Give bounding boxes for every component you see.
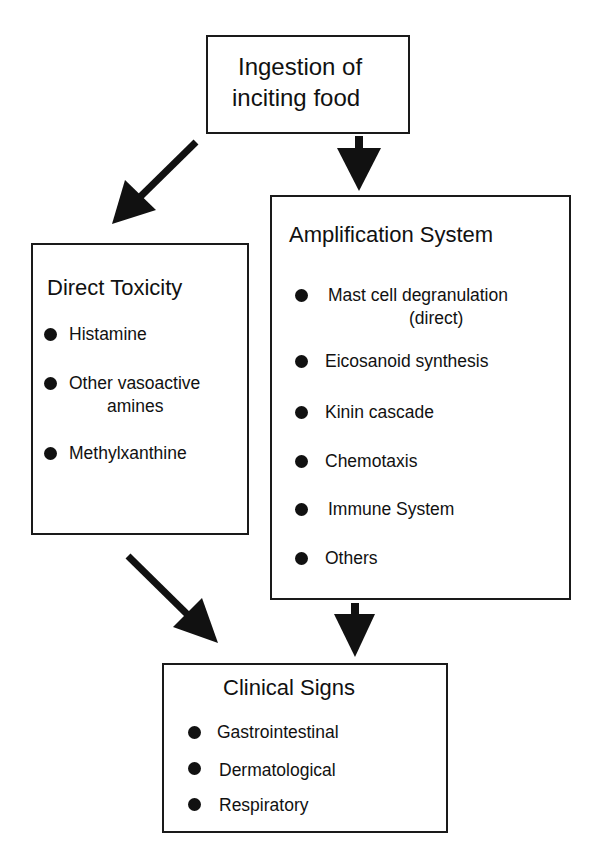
bullet-icon — [44, 328, 57, 341]
bullet-icon — [295, 289, 308, 302]
clinical-signs-box: Clinical Signs Gastrointestinal Dermatol… — [162, 663, 448, 833]
clinical-signs-title: Clinical Signs — [223, 675, 355, 701]
direct-toxicity-item-cont: amines — [107, 395, 163, 417]
direct-toxicity-title: Direct Toxicity — [47, 275, 182, 301]
arrow-start-to-amplification — [337, 136, 381, 191]
bullet-icon — [295, 552, 308, 565]
bullet-icon — [44, 377, 57, 390]
bullet-icon — [44, 447, 57, 460]
clinical-signs-item: Respiratory — [219, 794, 308, 816]
start-line-2: inciting food — [232, 84, 360, 112]
start-line-1: Ingestion of — [238, 53, 362, 81]
bullet-icon — [295, 406, 308, 419]
direct-toxicity-item: Histamine — [69, 323, 147, 345]
amplification-item: Kinin cascade — [325, 401, 434, 423]
clinical-signs-item: Gastrointestinal — [217, 721, 339, 743]
arrow-direct-toxicity-to-clinical — [128, 556, 218, 643]
direct-toxicity-box: Direct Toxicity Histamine Other vasoacti… — [31, 243, 249, 535]
bullet-icon — [188, 798, 201, 811]
amplification-item-cont: (direct) — [409, 307, 463, 329]
bullet-icon — [188, 762, 201, 775]
bullet-icon — [295, 503, 308, 516]
bullet-icon — [295, 355, 308, 368]
amplification-system-title: Amplification System — [289, 222, 493, 248]
amplification-item: Chemotaxis — [325, 450, 417, 472]
arrow-start-to-direct-toxicity — [112, 142, 196, 224]
amplification-item: Mast cell degranulation — [328, 284, 508, 306]
amplification-system-box: Amplification System Mast cell degranula… — [270, 195, 571, 600]
direct-toxicity-item: Methylxanthine — [69, 442, 187, 464]
arrow-amplification-to-clinical — [334, 603, 375, 657]
amplification-item: Eicosanoid synthesis — [325, 350, 488, 372]
amplification-item: Immune System — [328, 498, 454, 520]
amplification-item: Others — [325, 547, 378, 569]
start-box: Ingestion of inciting food — [206, 35, 410, 134]
bullet-icon — [295, 455, 308, 468]
clinical-signs-item: Dermatological — [219, 759, 336, 781]
direct-toxicity-item: Other vasoactive — [69, 372, 200, 394]
bullet-icon — [188, 726, 201, 739]
